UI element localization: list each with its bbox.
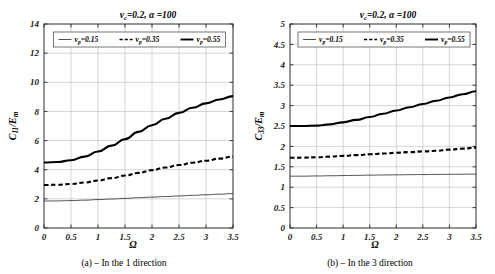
svg-text:2: 2 [149,232,155,242]
curve-thin [290,174,476,176]
svg-text:8: 8 [35,107,40,117]
chart-svg-b: vc=0.2, α =100 00.511.522.533.500.511.52… [248,0,495,274]
svg-text:2: 2 [393,232,399,242]
curve-dashed [290,148,476,158]
svg-text:2.5: 2.5 [416,232,429,242]
y-axis-title-a: C11/Em [7,111,20,140]
svg-text:0: 0 [35,223,40,233]
panel-caption-a: (a) – In the 1 direction [81,258,166,269]
chart-svg-a: vc=0.2, α =100 00.511.522.533.5024681012… [0,0,247,274]
x-axis-title-a: Ω [129,239,137,250]
tick-labels-a: 00.511.522.533.502468101214 [30,19,239,242]
curve-thick [290,91,476,126]
svg-text:0.5: 0.5 [274,203,286,213]
svg-text:2.5: 2.5 [172,232,185,242]
svg-text:1: 1 [281,182,286,192]
figure-container: vc=0.2, α =100 00.511.522.533.5024681012… [0,0,495,274]
svg-text:6: 6 [35,136,40,146]
chart-panel-b: vc=0.2, α =100 00.511.522.533.500.511.52… [248,0,495,274]
curve-thin [44,194,233,201]
svg-text:3.5: 3.5 [226,232,239,242]
svg-text:3.5: 3.5 [273,80,286,90]
svg-text:0.5: 0.5 [311,232,323,242]
svg-text:2.5: 2.5 [273,121,286,131]
svg-text:1: 1 [96,232,101,242]
svg-text:0: 0 [281,223,286,233]
legend-b: vp=0.15vp=0.35vp=0.55 [298,32,470,47]
svg-text:0: 0 [288,232,293,242]
data-curves-b [290,91,476,176]
svg-text:3: 3 [280,101,286,111]
data-curves-a [44,96,233,201]
legend-a: vp=0.15vp=0.35vp=0.55 [54,32,226,47]
svg-text:12: 12 [30,48,40,58]
svg-text:2: 2 [34,194,40,204]
svg-text:4: 4 [34,165,40,175]
x-axis-title-b: Ω [371,239,379,250]
svg-text:1: 1 [341,232,346,242]
svg-text:2: 2 [280,142,286,152]
y-axis-title-b: C33/Em [253,111,266,140]
svg-text:10: 10 [30,77,40,87]
svg-text:0.5: 0.5 [65,232,77,242]
svg-text:3: 3 [446,232,452,242]
plot-title-b: vc=0.2, α =100 [360,10,417,21]
panel-caption-b: (b) – In the 3 direction [327,258,413,269]
svg-text:4.5: 4.5 [273,40,286,50]
svg-text:0: 0 [42,232,47,242]
plot-title-a: vc=0.2, α =100 [120,10,177,21]
tick-labels-b: 00.511.522.533.500.511.522.533.544.55 [273,19,482,242]
svg-text:1.5: 1.5 [274,162,286,172]
chart-panel-a: vc=0.2, α =100 00.511.522.533.5024681012… [0,0,247,274]
curve-thick [44,96,233,162]
svg-text:5: 5 [281,19,286,29]
svg-text:4: 4 [280,60,286,70]
svg-text:14: 14 [30,19,40,29]
svg-text:3: 3 [203,232,209,242]
svg-text:3.5: 3.5 [469,232,482,242]
